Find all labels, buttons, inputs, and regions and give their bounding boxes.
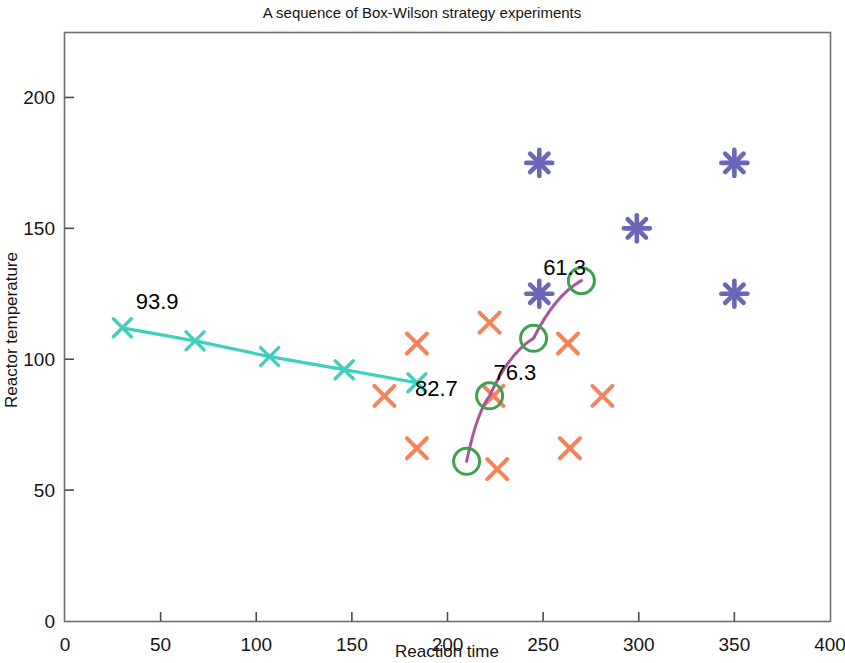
y-tick-label: 200 (23, 87, 55, 108)
x-tick-label: 250 (527, 634, 559, 655)
y-tick-label: 150 (23, 218, 55, 239)
x-tick-label: 350 (719, 634, 751, 655)
chart-title: A sequence of Box-Wilson strategy experi… (263, 4, 582, 21)
x-tick-label: 300 (623, 634, 655, 655)
x-axis-label: Reaction time (395, 642, 499, 661)
x-tick-label: 150 (336, 634, 368, 655)
point-value-label: 82.7 (415, 376, 458, 401)
chart-figure: A sequence of Box-Wilson strategy experi… (0, 0, 845, 663)
y-axis-label: Reactor temperature (2, 252, 21, 408)
point-value-label: 61.3 (543, 255, 586, 280)
x-tick-label: 400 (814, 634, 845, 655)
box-wilson-scatter-plot: A sequence of Box-Wilson strategy experi… (0, 0, 845, 663)
y-tick-label: 50 (34, 480, 55, 501)
y-tick-label: 100 (23, 349, 55, 370)
x-tick-label: 0 (60, 634, 71, 655)
point-value-label: 93.9 (136, 289, 179, 314)
x-tick-label: 50 (150, 634, 171, 655)
y-tick-label: 0 (44, 611, 55, 632)
point-value-label: 76.3 (493, 360, 536, 385)
x-tick-label: 100 (240, 634, 272, 655)
